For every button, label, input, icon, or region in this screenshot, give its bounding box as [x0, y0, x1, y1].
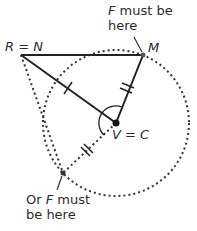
label-c: C: [140, 127, 149, 142]
segment-m-v: [116, 55, 143, 123]
tick-mark-single: [64, 82, 72, 94]
label-v-equals-c: V = C: [112, 127, 149, 142]
point-v: [113, 120, 120, 127]
point-f-alt: [61, 171, 66, 176]
pointer-to-m: [134, 37, 142, 52]
label-m: M: [148, 40, 159, 55]
pointer-to-f-alt: [57, 176, 62, 190]
dashed-segment-v-f: [63, 123, 116, 173]
label-r-equals-n: R = N: [5, 39, 43, 54]
note-or: Or: [26, 192, 46, 207]
label-n: N: [33, 39, 43, 54]
note-line2: be here: [26, 207, 90, 222]
angle-arc: [99, 113, 104, 135]
note-f-must-be-here: F must be here: [108, 3, 173, 33]
label-v: V: [112, 127, 121, 142]
label-eq: =: [121, 127, 140, 142]
label-eq: =: [14, 39, 33, 54]
dashed-segment-rn-f: [21, 55, 63, 173]
angle-arc-upper: [102, 106, 122, 113]
note-or-f-must-be-here: Or F must be here: [26, 192, 90, 222]
label-r: R: [5, 39, 14, 54]
note-line1: must be: [115, 3, 172, 18]
note-line2: here: [108, 18, 173, 33]
note-line1: must: [53, 192, 90, 207]
point-m: [141, 53, 146, 58]
